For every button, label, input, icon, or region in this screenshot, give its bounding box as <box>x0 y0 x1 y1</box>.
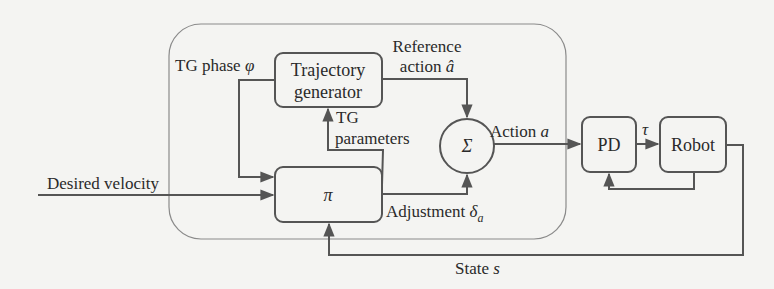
action-label: Action a <box>490 122 549 141</box>
pd-label: PD <box>597 135 620 155</box>
robot-label: Robot <box>671 135 715 155</box>
torque-label: τ <box>642 120 649 139</box>
trajectory-generator-label-2: generator <box>294 82 362 102</box>
robot-pd-feedback-line <box>609 172 694 189</box>
desired-velocity-label: Desired velocity <box>47 174 159 193</box>
tg-phase-line <box>239 80 275 177</box>
reference-action-label-2: action â <box>400 57 454 76</box>
reference-action-label-1: Reference <box>393 37 462 56</box>
policy-label: π <box>323 185 333 205</box>
tg-parameters-label-2: parameters <box>335 129 410 148</box>
tg-phase-label: TG phase φ <box>175 56 254 75</box>
sum-label: Σ <box>461 136 473 156</box>
trajectory-generator-label-1: Trajectory <box>291 60 365 80</box>
tg-parameters-label-1: TG <box>336 108 359 127</box>
adjustment-label: Adjustment δa <box>386 202 484 225</box>
reference-action-line <box>382 79 467 117</box>
adjustment-line <box>382 175 467 194</box>
control-diagram: Trajectory generator π Σ PD Robot TG pha… <box>0 0 774 289</box>
state-label: State s <box>455 259 500 278</box>
